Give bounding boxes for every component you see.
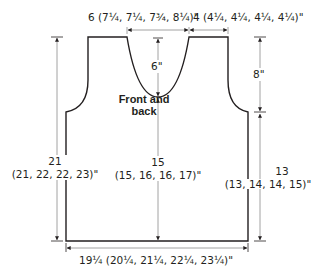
total-length-dimension: [51, 37, 63, 241]
total-length-sizes: (21, 22, 22, 23)": [5, 169, 105, 180]
total-length-label: 21 (21, 22, 22, 23)": [5, 155, 105, 180]
shoulder-width-label: 4 (4¼, 4¼, 4¼, 4¼)": [193, 12, 304, 23]
side-length-main: 13: [222, 166, 313, 177]
shoulder-width-dimension: [190, 27, 228, 34]
piece-title-line1: Front and: [116, 94, 172, 106]
center-length-main: 15: [110, 157, 206, 168]
side-length-label: 13 (13, 14, 14, 15)": [222, 166, 313, 189]
garment-schematic: [0, 0, 313, 279]
piece-title: Front and back: [116, 94, 172, 117]
total-length-main: 21: [5, 156, 105, 167]
width-dimension: [66, 243, 248, 252]
armhole-depth-label: 8": [252, 68, 266, 81]
neck-width-label: 6 (7¼, 7¼, 7¾, 8¼)": [88, 12, 199, 23]
neck-width-dimension: [127, 27, 189, 34]
piece-title-line2: back: [116, 106, 172, 118]
neck-depth-label: 6": [150, 60, 164, 73]
center-length-sizes: (15, 16, 16, 17)": [110, 170, 206, 181]
side-length-sizes: (13, 14, 14, 15)": [222, 179, 313, 190]
width-label: 19¼ (20¼, 21¼, 22¼, 23¼)": [56, 255, 256, 266]
center-length-label: 15 (15, 16, 16, 17)": [110, 156, 206, 181]
